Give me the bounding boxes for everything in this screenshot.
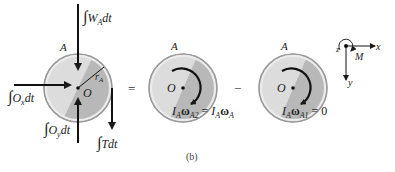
- impulse-momentum-diagram: A O rA ∫WAdt ∫Oxdt ∫Oydt ∫Tdt = A O IAωA…: [0, 0, 395, 172]
- minus-sign: −: [234, 81, 241, 96]
- x-axis-label: x: [375, 41, 381, 52]
- disk-middle-label: A: [170, 40, 178, 52]
- ox-impulse-label: ∫Oxdt: [7, 88, 35, 107]
- z-axis-label: z: [335, 44, 340, 54]
- moment-label: M: [354, 51, 364, 62]
- z-axis-origin: [344, 44, 348, 48]
- disk-left-center-label: O: [83, 86, 92, 100]
- disk-right-label: A: [280, 40, 288, 52]
- disk-left-label: A: [59, 41, 67, 53]
- y-axis-label: y: [347, 77, 353, 88]
- weight-impulse-label: ∫WAdt: [82, 8, 112, 27]
- figure-caption: (b): [186, 151, 198, 163]
- disk-right-center-label: O: [277, 81, 286, 95]
- oy-impulse-label: ∫Oydt: [43, 120, 71, 139]
- equals-sign: =: [128, 81, 135, 96]
- tension-impulse-label: ∫Tdt: [96, 134, 118, 153]
- final-momentum-label: IAωA2 = IAωA: [171, 104, 234, 120]
- disk-middle-center-label: O: [167, 81, 176, 95]
